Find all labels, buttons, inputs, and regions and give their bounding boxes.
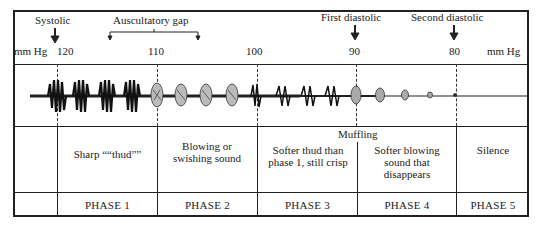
muffling-label: Muffling: [338, 129, 378, 140]
phase-1-label: PHASE 1: [58, 200, 157, 211]
diagram-graphics: [0, 0, 537, 231]
systolic-arrow-icon: [51, 28, 59, 43]
first-diastolic-arrow-icon: [351, 25, 359, 40]
phase-5-label: PHASE 5: [457, 200, 529, 211]
description-phase-3: Softer thud than phase 1, still crisp: [268, 144, 348, 168]
second-diastolic-arrow-icon: [450, 25, 458, 40]
description-phase-2: Blowing or swishing sound: [168, 140, 246, 164]
description-phase-4: Softer blowing sound that disappears: [362, 144, 452, 180]
phase-2-label: PHASE 2: [158, 200, 257, 211]
description-phase-1: Sharp ““thud””: [58, 148, 157, 160]
phase-4-label: PHASE 4: [358, 200, 456, 211]
description-phase-5: Silence: [457, 144, 529, 156]
auscultatory-gap-bracket-icon: [108, 29, 200, 40]
phase-3-label: PHASE 3: [258, 200, 357, 211]
